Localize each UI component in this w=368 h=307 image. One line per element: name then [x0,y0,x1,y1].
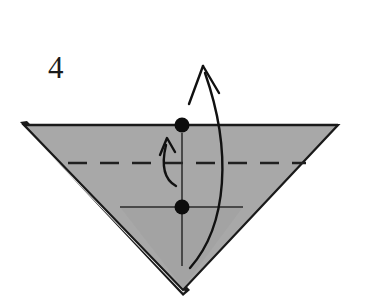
step-number: 4 [48,50,64,85]
lower-reference-dot [175,200,190,215]
origami-diagram-figure: 4 [0,0,368,307]
top-reference-dot [175,118,190,133]
origami-diagram-canvas: 4 [0,0,368,307]
